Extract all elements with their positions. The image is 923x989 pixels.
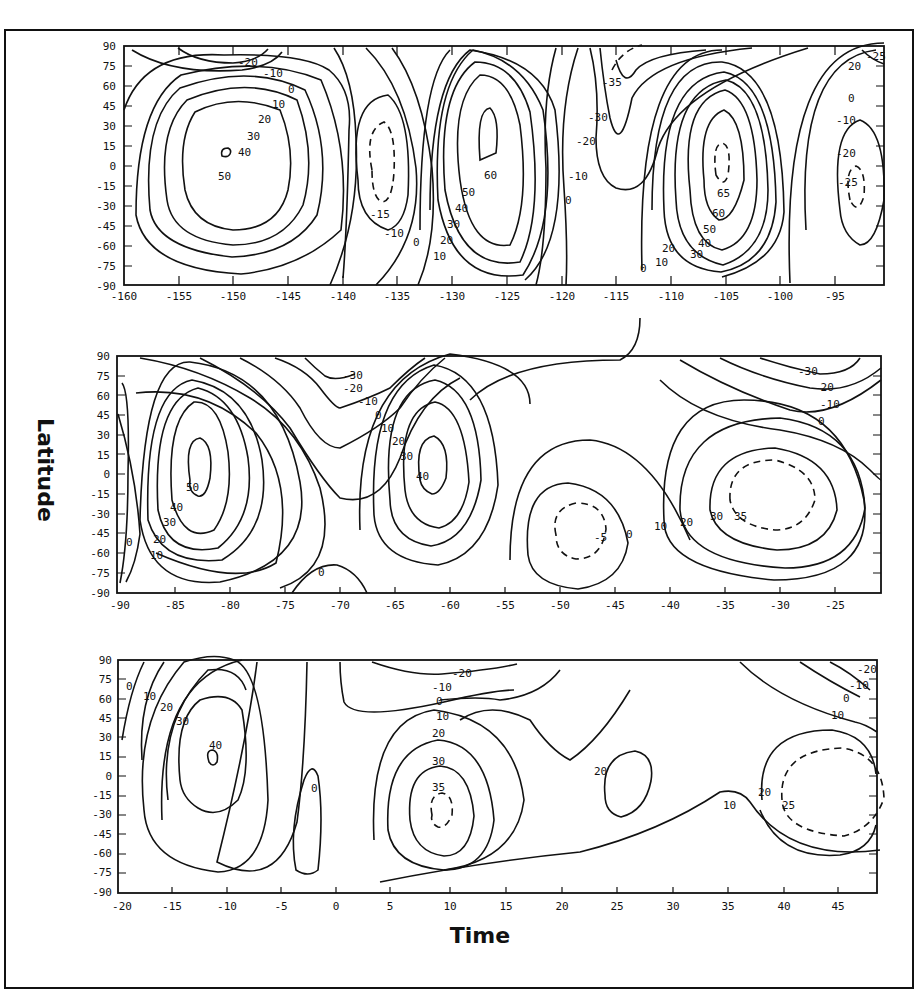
svg-text:90: 90 (99, 654, 112, 667)
svg-text:-15: -15 (162, 900, 182, 913)
svg-text:-20: -20 (343, 382, 363, 395)
svg-text:-115: -115 (603, 290, 630, 303)
panel-3-x-ticks: -20 -15 -10 -5 0 5 10 15 20 25 30 35 40 … (112, 900, 845, 913)
svg-text:-75: -75 (92, 866, 112, 879)
svg-text:-95: -95 (825, 290, 845, 303)
svg-text:-20: -20 (814, 381, 834, 394)
svg-text:10: 10 (723, 799, 736, 812)
svg-text:20: 20 (160, 701, 173, 714)
svg-text:-100: -100 (767, 290, 794, 303)
svg-text:-150: -150 (220, 290, 247, 303)
panel-1-y-ticks: 90 75 60 45 30 15 0 -15 -30 -45 -60 -75 … (96, 40, 116, 293)
svg-text:20: 20 (758, 786, 771, 799)
svg-text:75: 75 (103, 60, 116, 73)
svg-text:75: 75 (97, 370, 110, 383)
svg-text:0: 0 (413, 236, 420, 249)
svg-text:-10: -10 (849, 679, 869, 692)
svg-text:10: 10 (436, 710, 449, 723)
svg-text:60: 60 (99, 693, 112, 706)
svg-text:-15: -15 (92, 789, 112, 802)
svg-text:-30: -30 (92, 808, 112, 821)
svg-text:25: 25 (782, 799, 795, 812)
svg-text:10: 10 (831, 709, 844, 722)
svg-text:-10: -10 (568, 170, 588, 183)
svg-text:65: 65 (717, 187, 730, 200)
svg-text:40: 40 (698, 237, 711, 250)
svg-text:75: 75 (99, 673, 112, 686)
svg-text:60: 60 (97, 390, 110, 403)
panel-1-x-ticks: -160 -155 -150 -145 -140 -135 -130 -125 … (111, 290, 845, 303)
svg-text:-35: -35 (602, 76, 622, 89)
svg-text:50: 50 (218, 170, 231, 183)
svg-text:-45: -45 (96, 220, 116, 233)
svg-text:30: 30 (400, 450, 413, 463)
svg-text:30: 30 (99, 731, 112, 744)
svg-text:-80: -80 (220, 599, 240, 612)
svg-text:20: 20 (848, 60, 861, 73)
svg-text:-30: -30 (798, 365, 818, 378)
svg-text:0: 0 (333, 900, 340, 913)
svg-text:30: 30 (666, 900, 679, 913)
svg-text:-25: -25 (825, 599, 845, 612)
svg-text:50: 50 (462, 186, 475, 199)
svg-text:60: 60 (712, 207, 725, 220)
svg-text:-10: -10 (384, 227, 404, 240)
svg-text:0: 0 (565, 194, 572, 207)
svg-text:-60: -60 (440, 599, 460, 612)
svg-text:-40: -40 (660, 599, 680, 612)
svg-text:-75: -75 (96, 260, 116, 273)
svg-text:-20: -20 (452, 667, 472, 680)
svg-text:20: 20 (153, 533, 166, 546)
panel-2-contours (118, 318, 881, 593)
svg-text:-10: -10 (836, 114, 856, 127)
svg-text:50: 50 (186, 481, 199, 494)
y-axis-title: Latitude (33, 418, 58, 522)
svg-text:-75: -75 (90, 567, 110, 580)
svg-text:15: 15 (103, 140, 116, 153)
svg-text:-5: -5 (274, 900, 287, 913)
svg-text:-145: -145 (275, 290, 302, 303)
svg-text:40: 40 (238, 146, 251, 159)
svg-text:10: 10 (654, 520, 667, 533)
svg-text:-15: -15 (370, 208, 390, 221)
panel-2-x-ticks: -90 -85 -80 -75 -70 -65 -60 -55 -50 -45 … (110, 599, 845, 612)
panel-3-contours (122, 656, 884, 882)
svg-text:0: 0 (311, 782, 318, 795)
svg-text:0: 0 (436, 695, 443, 708)
svg-text:-15: -15 (96, 180, 116, 193)
panel-2-y-ticks: 90 75 60 45 30 15 0 -15 -30 -45 -60 -75 … (90, 350, 110, 600)
svg-text:-45: -45 (605, 599, 625, 612)
svg-text:-30: -30 (96, 200, 116, 213)
svg-text:-10: -10 (217, 900, 237, 913)
svg-text:30: 30 (247, 130, 260, 143)
svg-text:20: 20 (440, 234, 453, 247)
svg-text:45: 45 (831, 900, 844, 913)
svg-text:60: 60 (103, 80, 116, 93)
svg-text:-10: -10 (432, 681, 452, 694)
svg-text:-140: -140 (330, 290, 357, 303)
svg-text:0: 0 (126, 680, 133, 693)
svg-text:0: 0 (843, 692, 850, 705)
svg-text:30: 30 (710, 510, 723, 523)
svg-text:15: 15 (97, 449, 110, 462)
svg-text:-15: -15 (90, 488, 110, 501)
svg-text:0: 0 (126, 536, 133, 549)
svg-text:-5: -5 (594, 531, 607, 544)
svg-text:0: 0 (288, 83, 295, 96)
svg-text:10: 10 (381, 422, 394, 435)
svg-text:20: 20 (258, 113, 271, 126)
svg-text:60: 60 (484, 169, 497, 182)
svg-text:0: 0 (818, 415, 825, 428)
panel-3-contour-labels: 0 10 20 30 40 0 -20 -10 0 10 20 30 35 20… (126, 663, 877, 812)
svg-text:10: 10 (150, 549, 163, 562)
svg-text:-75: -75 (275, 599, 295, 612)
panel-2-contour-labels: -30 -20 -10 0 10 20 30 40 50 40 30 20 10… (126, 365, 840, 579)
panel-1-contour-labels: -20 -10 0 10 20 30 40 50 -15 -10 0 10 20… (218, 50, 886, 275)
svg-text:-85: -85 (165, 599, 185, 612)
svg-text:20: 20 (432, 727, 445, 740)
panel-2-tick-marks (117, 376, 881, 593)
svg-text:15: 15 (99, 750, 112, 763)
svg-text:-20: -20 (238, 56, 258, 69)
svg-text:-45: -45 (92, 828, 112, 841)
